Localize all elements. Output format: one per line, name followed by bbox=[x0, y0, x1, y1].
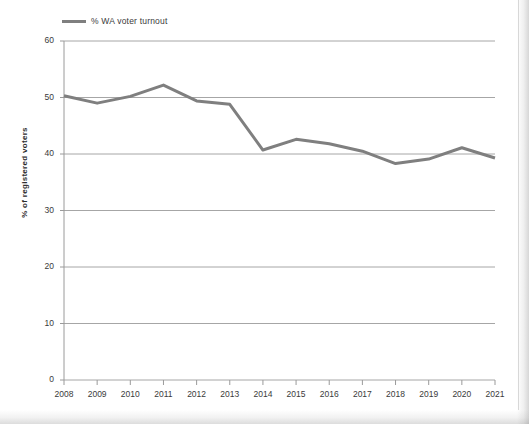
x-tick-label: 2021 bbox=[477, 389, 513, 399]
x-tick-label: 2016 bbox=[311, 389, 347, 399]
y-tick-label: 30 bbox=[30, 205, 54, 215]
x-tick-label: 2018 bbox=[378, 389, 414, 399]
y-tick-label: 20 bbox=[30, 261, 54, 271]
y-tick-label: 50 bbox=[30, 92, 54, 102]
x-tick-marks-group bbox=[64, 380, 495, 385]
x-tick-label: 2014 bbox=[245, 389, 281, 399]
x-tick-label: 2019 bbox=[411, 389, 447, 399]
x-tick-label: 2010 bbox=[112, 389, 148, 399]
x-tick-label: 2013 bbox=[212, 389, 248, 399]
chart-svg bbox=[0, 0, 529, 424]
x-tick-label: 2015 bbox=[278, 389, 314, 399]
x-tick-label: 2017 bbox=[344, 389, 380, 399]
gridlines-group bbox=[60, 41, 495, 380]
y-tick-label: 10 bbox=[30, 318, 54, 328]
x-tick-label: 2009 bbox=[79, 389, 115, 399]
x-tick-label: 2008 bbox=[46, 389, 82, 399]
series-line-wa-voter-turnout bbox=[64, 85, 495, 164]
y-tick-label: 0 bbox=[30, 374, 54, 384]
y-tick-label: 60 bbox=[30, 35, 54, 45]
chart-plot-area: % of registered voters 0102030405060 200… bbox=[0, 0, 529, 424]
y-tick-label: 40 bbox=[30, 148, 54, 158]
x-tick-label: 2012 bbox=[179, 389, 215, 399]
x-tick-label: 2020 bbox=[444, 389, 480, 399]
chart-page: % WA voter turnout % of registered voter… bbox=[0, 0, 529, 424]
x-tick-label: 2011 bbox=[145, 389, 181, 399]
